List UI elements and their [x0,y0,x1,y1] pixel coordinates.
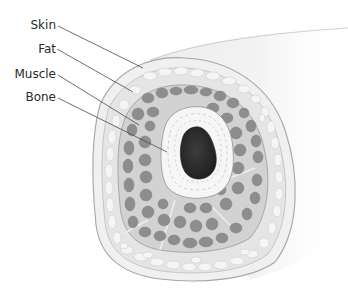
label-muscle: Muscle [0,67,56,81]
bone [161,107,233,199]
label-skin: Skin [0,18,56,32]
leader-line-skin [58,26,143,68]
label-fat: Fat [0,42,56,56]
label-bone: Bone [0,90,56,104]
leader-line-fat [57,49,133,92]
